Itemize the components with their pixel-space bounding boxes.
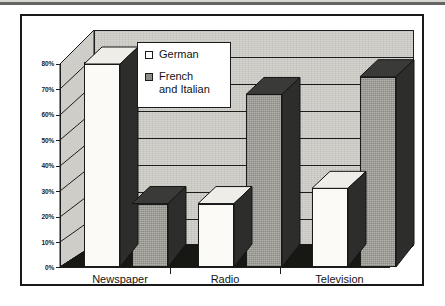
y-tick-40 <box>56 166 61 167</box>
y-tick-80 <box>56 64 61 65</box>
bar-television-french-italian[interactable] <box>360 16 396 267</box>
legend-label-german: German <box>159 48 199 61</box>
chart-frame: 80% 70% 60% 50% 40% 30% 20% 10% 0% Newsp… <box>20 14 424 286</box>
y-tick-50 <box>56 140 61 141</box>
legend-label-french-italian-line1: French <box>159 70 193 83</box>
y-axis-label-80: 80% <box>22 60 54 67</box>
x-divider-1 <box>170 267 171 274</box>
legend-item-french-italian[interactable]: French and Italian <box>145 71 230 97</box>
x-axis-label-newspaper: Newspaper <box>70 272 170 286</box>
y-tick-20 <box>56 217 61 218</box>
x-axis-label-television: Television <box>287 272 392 286</box>
scan-artifact-bar <box>0 2 445 5</box>
y-axis-label-10: 10% <box>22 239 54 246</box>
plot-stage: 80% 70% 60% 50% 40% 30% 20% 10% 0% Newsp… <box>22 16 422 284</box>
y-axis-label-70: 70% <box>22 86 54 93</box>
y-axis-label-60: 60% <box>22 111 54 118</box>
x-divider-2 <box>280 267 281 274</box>
legend-swatch-german-icon <box>145 51 153 59</box>
y-axis-label-0: 0% <box>22 264 54 271</box>
legend-label-french-italian-line2: and Italian <box>159 83 210 96</box>
y-axis-label-20: 20% <box>22 213 54 220</box>
y-axis-label-40: 40% <box>22 162 54 169</box>
x-axis-line <box>60 267 390 268</box>
y-tick-10 <box>56 242 61 243</box>
y-tick-60 <box>56 115 61 116</box>
y-tick-70 <box>56 89 61 90</box>
chart-legend: German French and Italian <box>137 42 231 108</box>
y-axis-label-30: 30% <box>22 188 54 195</box>
legend-swatch-french-italian-icon <box>145 73 153 81</box>
y-tick-30 <box>56 191 61 192</box>
x-axis-label-radio: Radio <box>180 272 270 286</box>
y-axis-label-50: 50% <box>22 137 54 144</box>
legend-item-german[interactable]: German <box>145 49 230 62</box>
bar-radio-french-italian[interactable] <box>246 16 282 267</box>
bar-television-german[interactable] <box>312 16 348 267</box>
bar-newspaper-german[interactable] <box>84 16 120 267</box>
